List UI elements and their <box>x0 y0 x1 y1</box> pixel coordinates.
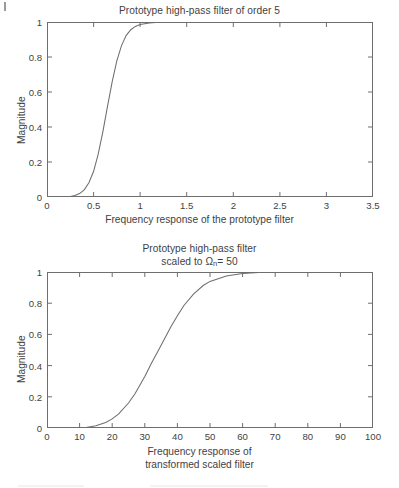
chart-title-bottom: Prototype high-pass filter scaled to Ωn=… <box>0 243 399 270</box>
chart-title-top: Prototype high-pass filter of order 5 <box>0 5 399 18</box>
xlabel-bottom: Frequency response of transformed scaled… <box>0 446 399 471</box>
ytick-label-top-5: 1 <box>20 17 42 28</box>
xtick-label-bottom-0: 0 <box>44 431 49 442</box>
chart-title-bottom-line1: Prototype high-pass filter <box>0 243 399 256</box>
ytick-label-bottom-1: 0.2 <box>20 391 42 402</box>
xtick-label-bottom-5: 50 <box>205 431 216 442</box>
page-bottom-artifact <box>0 484 399 488</box>
xtick-label-bottom-4: 40 <box>172 431 183 442</box>
ytick-label-bottom-0: 0 <box>20 423 42 434</box>
xlabel-bottom-line1: Frequency response of <box>0 446 399 459</box>
xtick-label-top-4: 2 <box>231 200 236 211</box>
response-curve-bottom <box>47 272 373 428</box>
ylabel-top: Magnitude <box>16 96 27 144</box>
ytick-label-top-1: 0.2 <box>20 157 42 168</box>
plot-canvas-bottom <box>47 272 373 428</box>
plot-canvas-top <box>47 22 373 197</box>
xtick-label-bottom-6: 60 <box>237 431 248 442</box>
figure-scaled-filter: Prototype high-pass filter scaled to Ωn=… <box>0 238 399 488</box>
page-bottom-artifact-right <box>150 485 268 487</box>
response-curve-top <box>47 22 373 197</box>
xtick-label-bottom-10: 100 <box>365 431 381 442</box>
xtick-label-top-1: 0.5 <box>87 200 100 211</box>
ytick-label-bottom-4: 0.8 <box>20 298 42 309</box>
xtick-label-top-2: 1 <box>137 200 142 211</box>
xlabel-top: Frequency response of the prototype filt… <box>0 214 399 227</box>
xtick-label-top-3: 1.5 <box>180 200 193 211</box>
xtick-label-top-7: 3.5 <box>366 200 379 211</box>
chart-title-bottom-line2-post: = 50 <box>217 256 237 267</box>
figure-prototype-filter: Prototype high-pass filter of order 5 <box>0 0 399 244</box>
xtick-label-bottom-7: 70 <box>270 431 281 442</box>
page-bottom-artifact-left <box>18 485 84 487</box>
xtick-label-bottom-8: 80 <box>302 431 313 442</box>
chart-title-bottom-line2: scaled to Ωn= 50 <box>0 256 399 271</box>
xtick-label-top-6: 3 <box>324 200 329 211</box>
xtick-label-top-5: 2.5 <box>273 200 286 211</box>
xtick-label-top-0: 0 <box>44 200 49 211</box>
ytick-label-top-4: 0.8 <box>20 52 42 63</box>
ytick-label-top-0: 0 <box>20 192 42 203</box>
ytick-label-bottom-5: 1 <box>20 267 42 278</box>
chart-title-top-line1: Prototype high-pass filter of order 5 <box>119 5 280 16</box>
omega-symbol: Ω <box>205 256 213 267</box>
xtick-label-bottom-1: 10 <box>74 431 85 442</box>
xlabel-bottom-line2: transformed scaled filter <box>0 459 399 472</box>
xtick-label-bottom-3: 30 <box>139 431 150 442</box>
xtick-label-bottom-9: 90 <box>335 431 346 442</box>
chart-title-bottom-line2-pre: scaled to <box>161 256 205 267</box>
xtick-label-bottom-2: 20 <box>107 431 118 442</box>
ylabel-bottom: Magnitude <box>16 335 27 383</box>
xlabel-top-line1: Frequency response of the prototype filt… <box>105 214 294 225</box>
